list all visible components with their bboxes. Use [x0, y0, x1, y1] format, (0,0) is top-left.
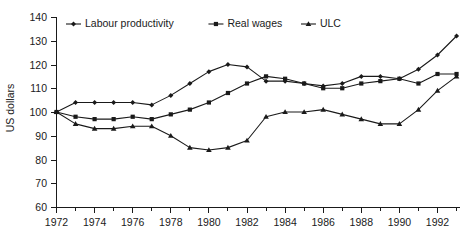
data-point-marker: [188, 108, 192, 112]
y-tick-label: 60: [35, 201, 47, 213]
series-line: [57, 76, 457, 150]
data-point-marker: [187, 145, 193, 150]
data-point-marker: [73, 115, 77, 119]
legend-item-label: ULC: [320, 17, 341, 29]
x-tick-label: 1972: [45, 216, 69, 228]
y-tick-group: 60708090100110120130140: [29, 11, 56, 213]
data-point-marker: [207, 100, 211, 104]
data-point-marker: [71, 22, 76, 27]
series-group: [54, 34, 460, 153]
chart-container: 60708090100110120130140 US dollars 19721…: [0, 0, 470, 240]
data-point-marker: [359, 74, 364, 79]
x-axis: 1972197419761978198019821984198619881990…: [45, 208, 460, 229]
series-ulc: [54, 74, 460, 153]
data-point-marker: [130, 100, 135, 105]
data-point-marker: [92, 100, 97, 105]
data-point-marker: [321, 86, 325, 90]
legend-item-label: Labour productivity: [85, 17, 174, 29]
series-labour-productivity: [54, 34, 459, 115]
data-point-marker: [73, 100, 78, 105]
legend-item-labour-productivity[interactable]: Labour productivity: [66, 17, 174, 29]
series-real-wages: [54, 72, 458, 121]
y-tick-label: 120: [29, 59, 47, 71]
data-point-marker: [214, 22, 218, 26]
data-point-marker: [435, 72, 439, 76]
data-point-marker: [112, 117, 116, 121]
data-point-marker: [283, 77, 287, 81]
x-tick-label: 1976: [121, 216, 145, 228]
y-tick-label: 90: [35, 130, 47, 142]
data-point-marker: [397, 77, 401, 81]
data-point-marker: [340, 86, 344, 90]
data-point-marker: [111, 100, 116, 105]
data-point-marker: [302, 81, 306, 85]
x-tick-label: 1988: [350, 216, 374, 228]
data-point-marker: [378, 79, 382, 83]
data-point-marker: [320, 107, 326, 112]
x-tick-label: 1974: [83, 216, 107, 228]
legend-item-label: Real wages: [227, 17, 282, 29]
x-tick-label: 1984: [273, 216, 297, 228]
data-point-marker: [73, 121, 79, 126]
y-tick-label: 100: [29, 106, 47, 118]
x-tick-group: 1972197419761978198019821984198619881990…: [45, 208, 457, 229]
data-point-marker: [340, 81, 345, 86]
y-tick-label: 110: [30, 82, 47, 94]
legend-item-real-wages[interactable]: Real wages: [208, 17, 282, 29]
data-point-marker: [225, 62, 230, 67]
data-point-marker: [206, 69, 211, 74]
data-point-marker: [168, 133, 174, 138]
line-chart: 60708090100110120130140 US dollars 19721…: [0, 0, 470, 240]
x-tick-label: 1978: [159, 216, 183, 228]
data-point-marker: [187, 81, 192, 86]
y-tick-label: 140: [29, 11, 47, 23]
y-tick-label: 130: [29, 35, 47, 47]
y-tick-label: 70: [35, 177, 47, 189]
data-point-marker: [245, 81, 249, 85]
data-point-marker: [378, 74, 383, 79]
data-point-marker: [150, 117, 154, 121]
x-tick-label: 1992: [426, 216, 450, 228]
y-axis-title: US dollars: [4, 84, 16, 132]
y-axis: 60708090100110120130140 US dollars: [4, 11, 57, 213]
data-point-marker: [169, 112, 173, 116]
data-point-marker: [264, 74, 268, 78]
series-line: [57, 74, 457, 119]
data-point-marker: [131, 115, 135, 119]
data-point-marker: [359, 81, 363, 85]
series-line: [57, 36, 457, 112]
legend-item-ulc[interactable]: ULC: [301, 17, 341, 29]
data-point-marker: [168, 93, 173, 98]
x-tick-label: 1990: [388, 216, 412, 228]
data-point-marker: [416, 81, 420, 85]
data-point-marker: [93, 117, 97, 121]
chart-legend: Labour productivityReal wagesULC: [66, 17, 341, 29]
x-tick-label: 1982: [235, 216, 259, 228]
data-point-marker: [226, 91, 230, 95]
y-tick-label: 80: [35, 154, 47, 166]
data-point-marker: [149, 102, 154, 107]
x-tick-label: 1986: [312, 216, 336, 228]
x-tick-label: 1980: [197, 216, 221, 228]
